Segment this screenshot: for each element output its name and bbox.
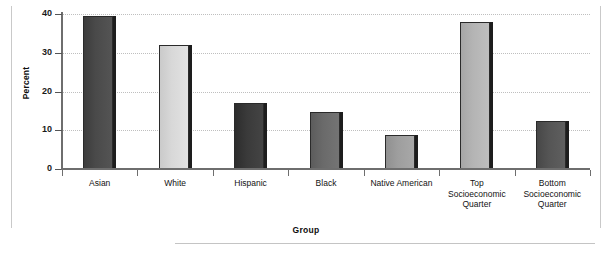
- x-tick-separator: [213, 170, 214, 176]
- bar-chart-figure: 010203040 Percent AsianWhiteHispanicBlac…: [0, 0, 612, 255]
- bar-shadow: [566, 121, 569, 169]
- y-tick-label-wrap: 0: [8, 164, 52, 173]
- bar-body: [310, 112, 340, 169]
- bar: [234, 103, 267, 169]
- y-tick-label: 10: [12, 125, 52, 134]
- x-tick-label: White: [137, 178, 212, 189]
- x-tick-label: TopSocioeconomicQuarter: [439, 178, 514, 210]
- x-tick-separator: [137, 170, 138, 176]
- bar: [159, 45, 192, 169]
- bar-body: [536, 121, 566, 169]
- x-tick-separator: [439, 170, 440, 176]
- bar-body: [159, 45, 189, 169]
- page-rule-bottom: [175, 243, 595, 244]
- x-tick-label-line: Socioeconomic: [439, 189, 514, 200]
- bar-body: [385, 135, 415, 169]
- bar-body: [460, 22, 490, 169]
- bar: [310, 112, 343, 169]
- x-tick-label-line: Native American: [364, 178, 439, 189]
- x-tick-separator: [590, 170, 591, 176]
- x-tick-separator: [62, 170, 63, 176]
- bar: [83, 16, 116, 169]
- x-tick-label-line: Asian: [62, 178, 137, 189]
- bar-shadow: [415, 135, 418, 169]
- y-tick-label-wrap: 40: [8, 9, 52, 18]
- x-tick-label-line: Bottom: [515, 178, 590, 189]
- y-tick-mark: [55, 92, 62, 93]
- x-axis-title: Group: [0, 225, 612, 235]
- bar-body: [83, 16, 113, 169]
- x-tick-label-line: Quarter: [439, 199, 514, 210]
- bar-shadow: [189, 45, 192, 169]
- bar-shadow: [490, 22, 493, 169]
- y-tick-label: 20: [12, 87, 52, 96]
- x-tick-label-line: Socioeconomic: [515, 189, 590, 200]
- y-tick-label: 30: [12, 48, 52, 57]
- x-tick-label-line: Hispanic: [213, 178, 288, 189]
- x-tick-label-line: Black: [288, 178, 363, 189]
- bar-shadow: [113, 16, 116, 169]
- bar-shadow: [340, 112, 343, 169]
- bar: [536, 121, 569, 169]
- x-axis-line: [61, 168, 590, 170]
- x-tick-separator: [288, 170, 289, 176]
- x-tick-label: Black: [288, 178, 363, 189]
- x-tick-label-line: White: [137, 178, 212, 189]
- x-tick-label: BottomSocioeconomicQuarter: [515, 178, 590, 210]
- y-tick-label: 0: [12, 164, 52, 173]
- bar: [385, 135, 418, 169]
- bars-group: [62, 14, 590, 169]
- y-tick-label: 40: [12, 9, 52, 18]
- bar-shadow: [264, 103, 267, 169]
- x-tick-label: Native American: [364, 178, 439, 189]
- y-axis-title: Percent: [21, 53, 31, 113]
- bar-body: [234, 103, 264, 169]
- x-tick-label: Asian: [62, 178, 137, 189]
- y-tick-mark: [55, 14, 62, 15]
- x-tick-label-line: Top: [439, 178, 514, 189]
- y-tick-label-wrap: 10: [8, 125, 52, 134]
- page-rule-right: [600, 6, 601, 228]
- page-rule-left: [11, 6, 12, 228]
- x-tick-separator: [364, 170, 365, 176]
- x-tick-separator: [515, 170, 516, 176]
- x-tick-label: Hispanic: [213, 178, 288, 189]
- bar: [460, 22, 493, 169]
- y-tick-mark: [55, 53, 62, 54]
- x-tick-label-line: Quarter: [515, 199, 590, 210]
- y-tick-mark: [55, 130, 62, 131]
